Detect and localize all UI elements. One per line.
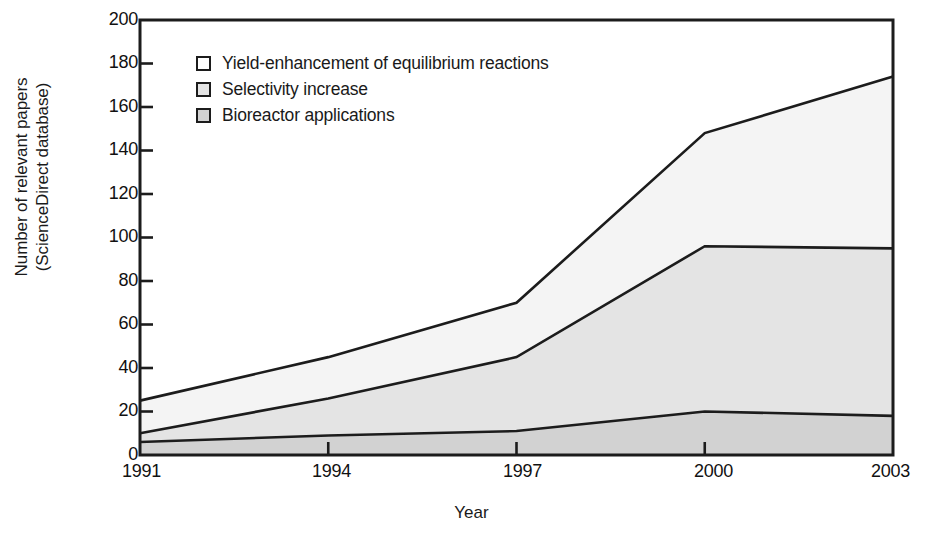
legend-swatch-icon <box>196 108 211 123</box>
legend-label: Selectivity increase <box>222 79 368 100</box>
chart-figure: Number of relevant papers (ScienceDirect… <box>0 0 943 542</box>
legend-item-bioreactor-applications: Bioreactor applications <box>196 102 549 128</box>
legend-item-yield-enhancement: Yield-enhancement of equilibrium reactio… <box>196 50 549 76</box>
legend-label: Yield-enhancement of equilibrium reactio… <box>222 53 549 74</box>
legend-item-selectivity-increase: Selectivity increase <box>196 76 549 102</box>
legend-swatch-icon <box>196 56 211 71</box>
chart-legend: Yield-enhancement of equilibrium reactio… <box>196 50 549 128</box>
legend-label: Bioreactor applications <box>222 105 394 126</box>
legend-swatch-icon <box>196 82 211 97</box>
